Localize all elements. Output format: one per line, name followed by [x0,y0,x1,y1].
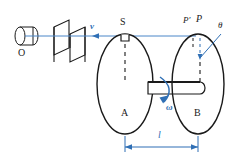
label-angle-theta: θ [218,21,222,30]
label-light-source: O [18,48,25,58]
light-ray-line [25,33,196,39]
label-point-p-prime: P′ [183,16,190,25]
label-separation-l: l [158,130,161,140]
label-disc-b: B [194,108,201,118]
collimator-plate-front [54,20,69,62]
label-angular-velocity: ω [166,103,173,112]
collimator-plate-rear [70,27,85,62]
separation-dimension-line [125,136,198,152]
figure-canvas: O v S A B ω P′ P θ l [0,0,233,161]
label-slit-s: S [120,17,126,27]
label-point-p: P [196,14,202,24]
label-velocity: v [90,22,94,31]
label-disc-a: A [121,108,128,118]
diagram-svg [0,0,233,161]
rotating-axle [148,82,205,94]
disc-a [97,34,153,134]
